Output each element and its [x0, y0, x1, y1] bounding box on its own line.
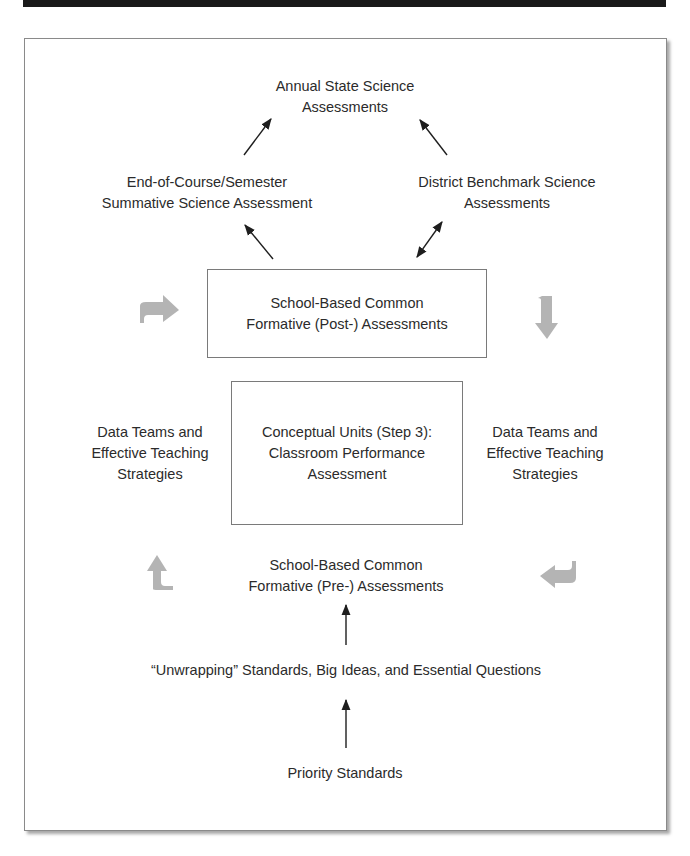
node-annual-state-assessments: Annual State Science Assessments: [245, 76, 445, 118]
node-conceptual-units-label: Conceptual Units (Step 3): Classroom Per…: [232, 422, 462, 485]
node-data-teams-left: Data Teams and Effective Teaching Strate…: [70, 422, 230, 485]
node-district-benchmark-assessments: District Benchmark Science Assessments: [382, 172, 632, 214]
node-post-assessments-label: School-Based Common Formative (Post-) As…: [208, 293, 486, 335]
node-unwrapping-standards: “Unwrapping” Standards, Big Ideas, and E…: [140, 660, 552, 681]
node-conceptual-units-box: Conceptual Units (Step 3): Classroom Per…: [231, 381, 463, 525]
node-post-assessments-box: School-Based Common Formative (Post-) As…: [207, 269, 487, 358]
top-bar: [23, 0, 666, 7]
node-data-teams-right: Data Teams and Effective Teaching Strate…: [465, 422, 625, 485]
node-pre-assessments: School-Based Common Formative (Pre-) Ass…: [220, 555, 472, 597]
node-end-of-course-assessment: End-of-Course/Semester Summative Science…: [82, 172, 332, 214]
node-priority-standards: Priority Standards: [245, 763, 445, 784]
